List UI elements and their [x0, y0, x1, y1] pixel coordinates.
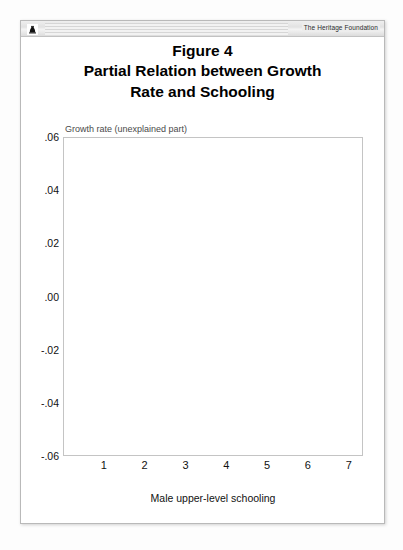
x-tick-label: 4 — [223, 459, 229, 471]
x-tick-label: 6 — [305, 459, 311, 471]
x-tick-label: 3 — [182, 459, 188, 471]
x-tick-label: 2 — [142, 459, 148, 471]
y-tick-label: -.04 — [41, 397, 59, 409]
y-tick-label: .00 — [44, 291, 59, 303]
x-tick-label: 1 — [101, 459, 107, 471]
figure-title-line-3: Rate and Schooling — [21, 82, 384, 102]
y-axis-title: Growth rate (unexplained part) — [65, 124, 187, 134]
y-tick-label: -.02 — [41, 344, 59, 356]
figure-card: The Heritage Foundation Figure 4 Partial… — [20, 20, 385, 524]
y-tick-label: .04 — [44, 184, 59, 196]
figure-page: The Heritage Foundation Figure 4 Partial… — [0, 0, 403, 550]
figure-title-line-1: Figure 4 — [21, 41, 384, 61]
publication-header: The Heritage Foundation — [21, 21, 384, 37]
x-tick-label: 7 — [346, 459, 352, 471]
scatter-plot: Growth rate (unexplained part) -.06-.04-… — [63, 137, 363, 456]
plot-frame — [63, 137, 363, 456]
x-axis-title: Male upper-level schooling — [63, 492, 363, 504]
liberty-bell-icon — [25, 23, 39, 35]
publication-brand: The Heritage Foundation — [302, 23, 380, 32]
y-tick-label: .06 — [44, 131, 59, 143]
x-tick-label: 5 — [264, 459, 270, 471]
y-tick-label: -.06 — [41, 450, 59, 462]
figure-title: Figure 4 Partial Relation between Growth… — [21, 41, 384, 102]
header-stripes — [45, 23, 288, 35]
y-tick-label: .02 — [44, 237, 59, 249]
figure-title-line-2: Partial Relation between Growth — [21, 61, 384, 81]
